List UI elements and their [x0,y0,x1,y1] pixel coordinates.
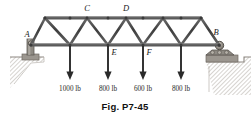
truss-figure: A B C D E F 1000 lb 800 lb 600 lb 800 lb… [0,0,251,118]
joint-label-F: F [145,47,152,57]
ground-left [10,57,44,88]
joint-label-B: B [213,27,218,37]
support-pedestal-left [22,39,39,60]
ground-right [206,57,251,95]
load-label-4: 800 lb [172,85,191,93]
load-label-1: 1000 lb [59,85,81,93]
web-members [31,18,219,45]
truss-members [30,17,221,47]
joint-label-E: E [110,47,117,57]
load-label-2: 800 lb [99,85,118,93]
joint-label-D: D [122,3,130,13]
figure-caption: Fig. P7-45 [102,101,149,112]
load-arrow-1 [66,46,73,80]
joint-label-C: C [84,3,90,13]
joint-label-A: A [23,29,30,39]
load-label-3: 600 lb [134,85,153,93]
truss-diagram: A B C D E F 1000 lb 800 lb 600 lb 800 lb… [0,0,251,118]
load-arrows [66,46,184,80]
load-arrow-4 [177,46,184,80]
